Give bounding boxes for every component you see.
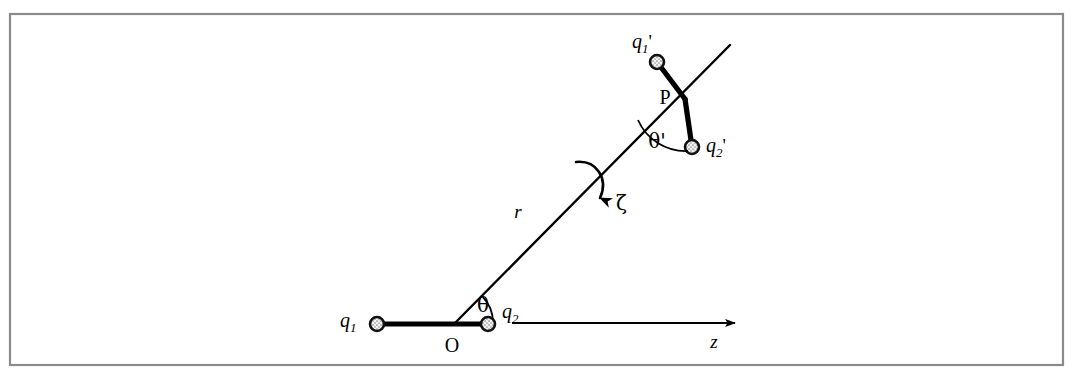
theta-label: θ (477, 293, 489, 317)
charge-q1-prime-label: q1' (632, 30, 652, 56)
r-line (455, 45, 730, 323)
zeta-rotation-arrow: ζ (576, 162, 627, 215)
lower-dipole: q1 q2 O (340, 300, 519, 356)
charge-q2-marker (481, 317, 495, 331)
upper-dipole: q1' q2' P θ' (632, 30, 726, 160)
z-axis: z (512, 323, 735, 352)
origin-label: O (445, 334, 459, 356)
z-axis-label: z (709, 331, 718, 352)
zeta-arc (576, 162, 603, 198)
charge-q1-marker (370, 317, 384, 331)
separation-vector-r: r (455, 45, 730, 323)
figure-border (10, 14, 1063, 365)
charge-q2-prime-label: q2' (706, 134, 726, 160)
charge-q1-label: q1 (340, 309, 357, 335)
point-p-label: P (659, 86, 670, 108)
charge-q1-prime-marker (650, 55, 664, 69)
theta-prime-label: θ' (648, 129, 666, 153)
dipole-geometry-diagram: r θ q1 q2 O (0, 0, 1073, 379)
figure-root: r θ q1 q2 O (0, 0, 1073, 379)
zeta-label: ζ (616, 191, 627, 215)
r-label: r (514, 201, 522, 222)
